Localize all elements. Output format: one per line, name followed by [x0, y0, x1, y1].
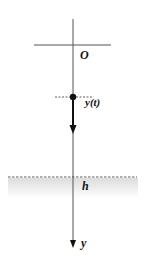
level-h-label: h — [82, 179, 89, 193]
y-axis-arrowhead-icon — [70, 240, 76, 248]
origin-label: O — [80, 48, 89, 62]
position-label: y(t) — [83, 96, 100, 109]
y-axis-label: y — [79, 236, 87, 250]
velocity-arrowhead-icon — [70, 125, 77, 134]
falling-object-diagram: O y(t) h y — [0, 0, 152, 262]
